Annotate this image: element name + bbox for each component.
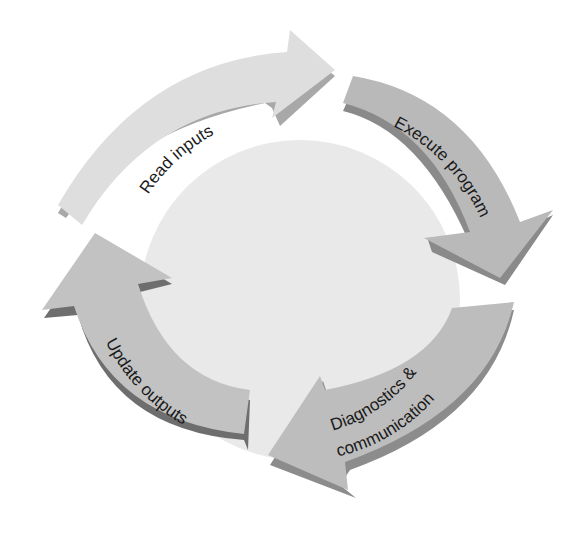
cycle-diagram: Read inputs Execute program Diagnostics … xyxy=(0,0,579,539)
